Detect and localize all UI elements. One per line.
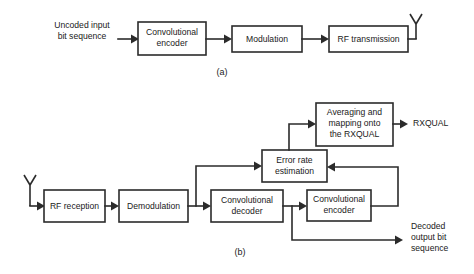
block-label-rf-transmission: RF transmission [337,34,399,44]
arrow-error-rate-to-averaging [289,120,316,151]
block-diagram-figure: Uncoded input bit sequence Convolutional… [0,0,474,274]
block-label-convolutional-decoder-line2: decoder [231,206,262,216]
label-rxqual-output: RXQUAL [413,118,449,128]
caption-b: (b) [235,247,246,257]
block-label-rf-reception: RF reception [50,201,99,211]
block-label-averaging-line2: mapping onto [328,118,380,128]
transmit-antenna-icon [408,14,422,39]
label-uncoded-input-line1: Uncoded input [54,20,110,30]
caption-a: (a) [217,67,228,77]
block-label-error-rate-estimation-line1: Error rate [276,155,313,165]
arrow-rf-reception-to-demodulation [105,202,119,211]
label-uncoded-input-line2: bit sequence [58,31,107,41]
arrow-decoder-to-encoder [283,202,307,211]
block-label-convolutional-encoder-rx-line1: Convolutional [313,194,365,204]
block-label-demodulation: Demodulation [127,201,180,211]
block-label-convolutional-encoder-tx-line1: Convolutional [146,27,198,37]
arrow-encoder-to-modulation [206,35,232,44]
block-label-convolutional-encoder-rx-line2: encoder [323,205,354,215]
label-decoded-output-line1: Decoded [411,221,446,231]
label-decoded-output-line2: output bit [411,232,447,242]
block-label-convolutional-encoder-tx-line2: encoder [156,38,187,48]
receive-antenna-icon [24,175,45,211]
arrow-modulation-to-rf-transmission [302,35,329,44]
diagram-canvas: Uncoded input bit sequence Convolutional… [0,0,474,274]
arrow-averaging-to-rxqual-output [393,120,408,129]
arrow-demodulation-to-convolutional-decoder [188,202,211,211]
block-label-modulation: Modulation [246,34,288,44]
block-label-error-rate-estimation-line2: estimation [275,166,314,176]
block-label-averaging-line3: the RXQUAL [330,129,380,139]
label-decoded-output-line3: sequence [411,243,448,253]
block-label-averaging-line1: Averaging and [327,107,382,117]
arrow-input-to-conv-encoder [118,35,139,44]
block-label-convolutional-decoder-line1: Convolutional [221,195,273,205]
